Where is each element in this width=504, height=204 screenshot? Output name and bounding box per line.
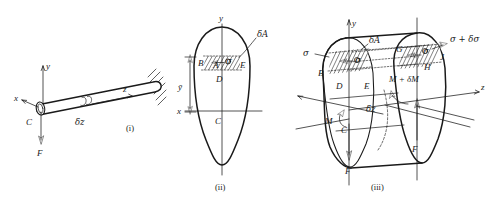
engineering-figure-panel-group: y x z C F δz (i) <box>0 0 504 204</box>
centroid-distance-label: ȳ <box>177 82 183 92</box>
axis-x-label-panel-ii: x <box>176 106 181 116</box>
panel-ii-cross-section: σ δA y x ȳ <box>176 13 268 192</box>
axis-x-panel-i <box>22 100 38 107</box>
point-b-label-panel-iii: B <box>318 68 324 78</box>
axis-z-label-panel-iii: z <box>480 82 485 92</box>
axis-y-label-panel-iii: y <box>351 18 356 28</box>
element-length-label-panel-iii: δz <box>366 104 376 114</box>
stress-symbol-far: σ <box>423 46 429 56</box>
panel-caption-iii: (iii) <box>371 182 384 192</box>
point-e-label-panel-iii: E <box>363 81 370 91</box>
stress-label-panel-ii: σ <box>226 56 232 66</box>
axis-z-label-panel-i: z <box>122 84 127 94</box>
axis-x-label-panel-i: x <box>13 93 18 103</box>
stress-symbol-near: σ <box>355 55 361 65</box>
beam-bottom-edge <box>351 163 422 168</box>
force-arrow-panel-i <box>39 112 44 144</box>
panel-iii-beam-element: y z σ σ <box>296 18 485 192</box>
point-e-label-panel-ii: E <box>239 60 246 70</box>
stress-label-far-panel-iii: σ + δσ <box>450 34 479 44</box>
moment-far-label-panel-iii: M + δM <box>388 74 419 84</box>
point-g-label-panel-iii: G <box>396 44 403 54</box>
element-length-label-panel-i: δz <box>75 117 85 127</box>
centroid-label-panel-ii: C <box>215 116 222 126</box>
elemental-area-label-panel-ii: δA <box>257 29 268 39</box>
point-b-label-panel-ii: B <box>198 58 204 68</box>
point-d-label-panel-iii: D <box>335 81 343 91</box>
stress-near-leader <box>315 54 329 57</box>
stress-label-near-panel-iii: σ <box>303 48 309 58</box>
axis-y-panel-iii <box>347 20 351 185</box>
point-a-label-panel-ii: A <box>212 60 219 70</box>
axis-y-panel-i <box>41 66 45 104</box>
moment-near-label-panel-iii: M <box>324 116 333 126</box>
neutral-surface-arc <box>378 90 388 150</box>
panel-caption-i: (i) <box>126 123 134 133</box>
point-d-label-panel-ii: D <box>215 74 223 84</box>
elemental-area-label-panel-iii: δA <box>369 35 380 45</box>
centroid-label-panel-iii: C <box>341 125 348 135</box>
centroid-label-panel-i: C <box>26 117 33 127</box>
rod-body <box>35 82 161 116</box>
centroid-distance-label-group: ȳ <box>177 82 183 92</box>
panel-caption-ii: (ii) <box>215 182 226 192</box>
axis-y-label-panel-i: y <box>45 61 50 71</box>
shear-label-far-panel-iii: F <box>411 144 418 154</box>
shear-label-near-panel-iii: F <box>344 166 351 176</box>
force-label-panel-i: F <box>36 148 43 158</box>
axis-y-label-panel-ii: y <box>218 13 223 23</box>
panel-i-cantilever-rod: y x z C F δz (i) <box>13 61 166 158</box>
point-h-label-panel-iii: H <box>423 62 431 72</box>
